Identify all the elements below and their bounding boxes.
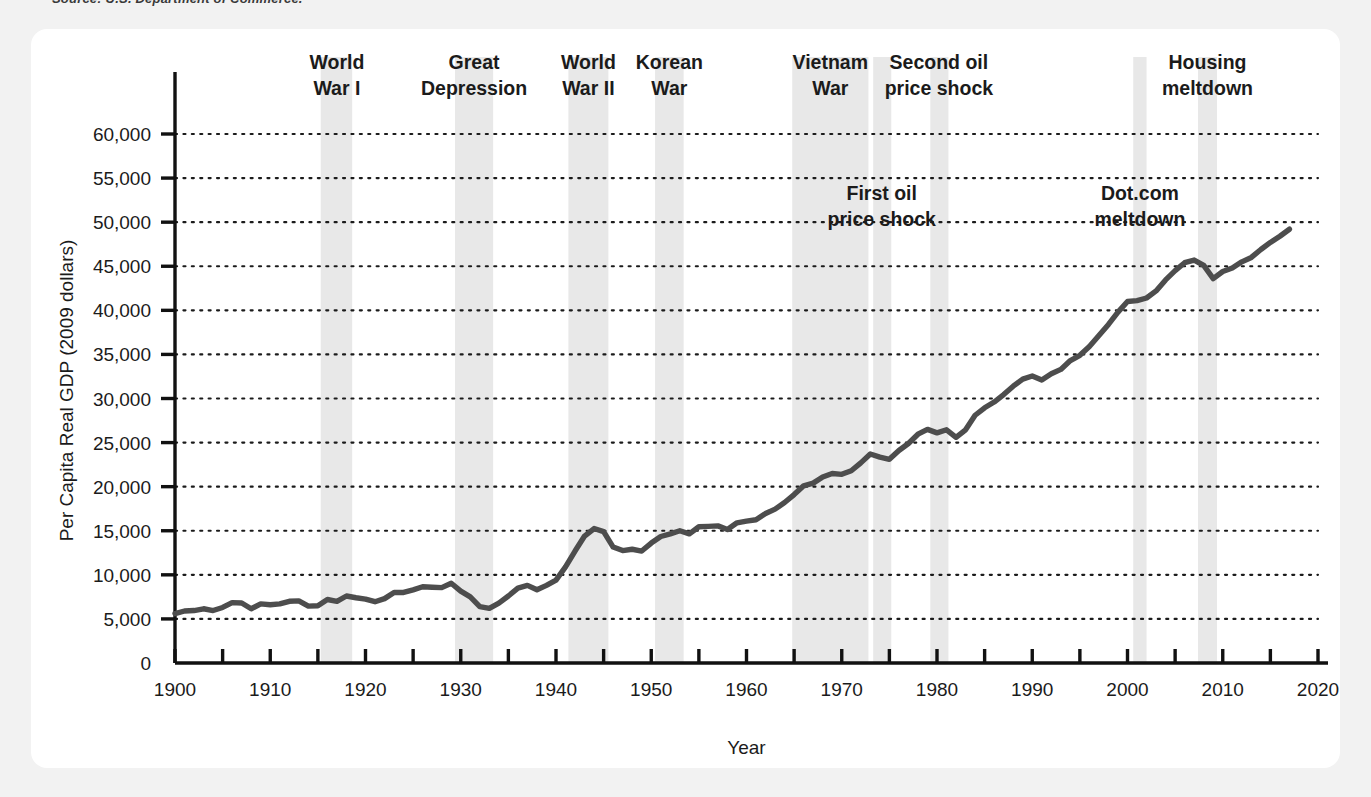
x-tick-label: 1980 (916, 679, 958, 700)
event-band (1133, 57, 1146, 663)
y-tick-label: 60,000 (93, 124, 151, 145)
x-tick-label: 1990 (1011, 679, 1053, 700)
chart-card: 05,00010,00015,00020,00025,00030,00035,0… (31, 29, 1340, 768)
event-band (792, 57, 868, 663)
event-shaded-bands (321, 57, 1217, 663)
event-label: Housing (1169, 51, 1247, 73)
event-label: Depression (421, 77, 527, 99)
x-tick-label: 1970 (821, 679, 863, 700)
event-band (455, 57, 493, 663)
event-label: First oil (847, 182, 917, 204)
event-label: meltdown (1162, 77, 1253, 99)
source-note: Source: U.S. Department of Commerce. (52, 0, 303, 6)
y-tick-label: 55,000 (93, 168, 151, 189)
y-tick-label: 5,000 (103, 609, 151, 630)
x-tick-label: 1920 (344, 679, 386, 700)
y-tick-label: 25,000 (93, 433, 151, 454)
event-label: War II (562, 77, 614, 99)
chart-canvas: 05,00010,00015,00020,00025,00030,00035,0… (31, 29, 1340, 768)
x-tick-label: 1930 (440, 679, 482, 700)
event-label: War I (313, 77, 360, 99)
event-label: Second oil (890, 51, 989, 73)
x-tick-label: 1910 (249, 679, 291, 700)
event-label: Korean (636, 51, 703, 73)
y-tick-label: 20,000 (93, 477, 151, 498)
y-tick-label: 15,000 (93, 521, 151, 542)
y-tick-label: 45,000 (93, 256, 151, 277)
event-label: meltdown (1094, 208, 1185, 230)
event-label: price shock (828, 208, 937, 230)
event-label: price shock (885, 77, 994, 99)
event-label: Vietnam (793, 51, 869, 73)
x-tick-label: 1960 (725, 679, 767, 700)
y-tick-label: 10,000 (93, 565, 151, 586)
event-label: World (561, 51, 616, 73)
event-band (321, 57, 352, 663)
event-label: Great (449, 51, 500, 73)
event-band (655, 57, 684, 663)
event-label: Dot.com (1101, 182, 1179, 204)
event-label: War (812, 77, 849, 99)
y-tick-label: 40,000 (93, 300, 151, 321)
x-tick-label: 2020 (1297, 679, 1339, 700)
x-tick-label: 1900 (154, 679, 196, 700)
event-band (568, 57, 608, 663)
x-axis-title: Year (727, 737, 766, 758)
y-axis-ticks: 05,00010,00015,00020,00025,00030,00035,0… (93, 124, 175, 674)
gdp-line-chart: 05,00010,00015,00020,00025,00030,00035,0… (31, 29, 1340, 768)
event-annotations: WorldWar IGreatDepressionWorldWar IIKore… (309, 51, 1253, 230)
event-label: World (309, 51, 364, 73)
x-tick-label: 1940 (535, 679, 577, 700)
y-tick-label: 0 (140, 653, 151, 674)
event-band (930, 57, 948, 663)
y-tick-label: 50,000 (93, 212, 151, 233)
y-tick-label: 30,000 (93, 389, 151, 410)
event-band (873, 57, 891, 663)
x-tick-label: 2000 (1106, 679, 1148, 700)
y-axis-title: Per Capita Real GDP (2009 dollars) (56, 240, 77, 542)
y-tick-label: 35,000 (93, 344, 151, 365)
event-band (1198, 57, 1217, 663)
x-tick-label: 2010 (1202, 679, 1244, 700)
event-label: War (651, 77, 688, 99)
x-tick-label: 1950 (630, 679, 672, 700)
